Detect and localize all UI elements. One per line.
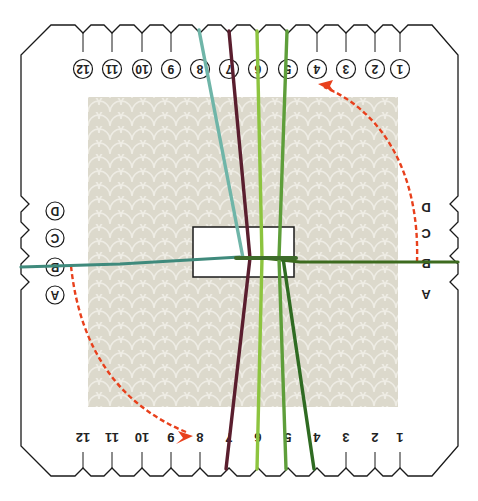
- right-label-C: C: [421, 226, 431, 241]
- top-label-12: 12: [76, 62, 90, 76]
- right-label-D: D: [421, 200, 430, 215]
- bottom-label-4: 4: [313, 430, 321, 445]
- bottom-label-12: 12: [76, 430, 90, 445]
- right-label-A: A: [421, 287, 431, 302]
- top-label-11: 11: [105, 62, 118, 76]
- bottom-label-2: 2: [371, 430, 378, 445]
- bottom-label-3: 3: [342, 430, 349, 445]
- bottom-label-8: 8: [196, 430, 203, 445]
- top-label-8: 8: [196, 62, 203, 76]
- braiding-card-diagram: 12 11 10 9 8 7 6 5 4 3 2 1 12 11 10 9 8 …: [0, 0, 478, 501]
- left-label-C: C: [50, 231, 59, 245]
- left-label-A: A: [50, 288, 59, 302]
- top-label-2: 2: [371, 62, 378, 76]
- bottom-label-1: 1: [396, 430, 403, 445]
- top-label-1: 1: [396, 62, 403, 76]
- top-label-4: 4: [313, 62, 320, 76]
- bottom-label-10: 10: [135, 430, 149, 445]
- top-label-9: 9: [167, 62, 174, 76]
- left-label-D: D: [50, 204, 59, 218]
- top-label-10: 10: [135, 62, 149, 76]
- bottom-label-11: 11: [105, 430, 119, 445]
- bottom-label-9: 9: [167, 430, 174, 445]
- top-label-3: 3: [342, 62, 349, 76]
